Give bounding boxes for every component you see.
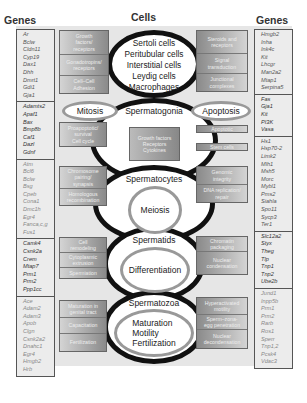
gene-label: Bmp8b [23,126,54,134]
gene-label: Csnk2a2 [23,336,54,344]
gene-label: Dax1 [23,61,54,69]
gene-label: Crem [23,256,54,264]
gene-label: Ros1 [261,328,292,336]
gene-label: Dmrt1 [23,77,54,85]
gene-label: Dazl [23,141,54,149]
gene-label: Mtap7 [23,263,54,271]
gene-label: Jund1 [261,290,292,298]
gene-label: Cyp19 [23,54,54,62]
gene-label: Serpina5 [261,84,292,92]
function-box: Cytoplasmicextrusion [60,253,106,268]
left-gene-group-spermatogonia: Adamts2Apaf1BaxBmp8bCaf1DazlGdnf [17,102,54,159]
gene-label: Prm1 [261,305,292,313]
differentiation-label: Differentiation [129,265,181,275]
mitosis-ring: Mitosis [62,101,118,121]
gene-label: Apaf1 [23,111,54,119]
function-box: Proapoptotic/survivalCell cycle [60,123,106,146]
gene-label: Tlp [261,256,292,264]
right-gene-group-spermatozoa: Jund1Inpp5bPrm1Prm2RarbRos1SperrTnp1,2Pc… [255,289,292,368]
gene-label: Hrb [23,366,54,374]
gene-label: Gja1 [261,103,292,111]
gene-label: Bax [23,119,54,127]
gene-label: Inpp5b [261,298,292,306]
sertoli-cells-label: Sertoli cells [112,38,196,49]
gene-label: Ube2b [261,278,292,286]
function-box: Steroids andreceptors [197,31,247,54]
gene-label: Spo11 [261,206,292,214]
gene-label: Bclw [23,176,54,184]
left-boxes-cells: Growthfactors/receptorsGonadotropins/rec… [59,30,109,94]
gene-label: Inha [261,39,292,47]
gene-label: Bcl6 [23,168,54,176]
right-genes-column: Hmgb2InhaInk4cKitLhcgrMan2a2Mtap1Serpina… [254,29,293,369]
gene-label: Slc12a2 [261,233,292,241]
function-box: Junctionalcomplexes [197,74,247,91]
gene-label: Vdac3 [261,358,292,366]
left-boxes-spermatids: CellremodelingCytoplasmicextrusionSpermi… [59,237,107,279]
gene-label: Mlh1 [261,161,292,169]
function-box: Capacitation [60,318,106,334]
gene-label: Fus1 [23,229,54,237]
gene-label: Fas [261,96,292,104]
left-gene-group-cells: ArBclwCldn11Cyp19Dax1DhhDmrt1Gdi1Gja1 [17,30,54,102]
gene-label: Cpeb [23,191,54,199]
gene-label: Gja1 [23,92,54,100]
gene-label: Adam3 [23,313,54,321]
right-gene-group-cells: Hmgb2InhaInk4cKitLhcgrMan2a2Mtap1Serpina… [255,30,292,95]
gene-label: Atm [23,161,54,169]
gene-label: Kit [261,111,292,119]
gene-label: Apob [23,320,54,328]
somatic-cells-list: Sertoli cells Peritubular cells Intersti… [112,38,196,93]
gene-label: Dmc1h [23,206,54,214]
function-box: Chromosomepairing/synapsis [60,167,106,189]
left-boxes-spermatogonia: Proapoptotic/survivalCell cycle [59,122,107,147]
gene-label: Lhcgr [261,61,292,69]
gene-label: Prm2 [23,278,54,286]
right-boxes-spermatocytes: GenomicintegrityDNA replication/repair [196,166,248,203]
gene-label: Egr4 [23,351,54,359]
meiosis-ring: Meiosis [128,186,182,234]
peritubular-cells-label: Peritubular cells [112,49,196,60]
gene-label: Msh5 [261,168,292,176]
gene-label: Tnp1 [261,263,292,271]
function-box: Nuclearcondensation [197,252,247,274]
cells-title: Cells [131,11,156,23]
gene-label: Cldn11 [23,46,54,54]
gene-label: Gdnf [23,149,54,157]
function-box: Fertilization [60,334,106,351]
gene-label: Styx [261,240,292,248]
leydig-cells-label: Leydig cells [112,71,196,82]
gene-label: Ink4c [261,46,292,54]
gene-label: Caf1 [23,134,54,142]
right-boxes-spermatozoa: HyperactivatedmotilitySperm–zona-egg pen… [196,297,248,349]
gene-label: Theg [261,248,292,256]
apoptosis-label: Apoptosis [202,106,239,116]
gene-label: Hmgb2 [23,358,54,366]
gene-label: Mybl1 [261,183,292,191]
gene-label: Sperr [261,336,292,344]
gene-label: PI3K [261,119,292,127]
left-gene-group-spermatocytes: AtmBcl6BclwBsgCpebCona1Dmc1hEgr4Fanca,c,… [17,160,54,240]
gene-label: Adamts2 [23,103,54,111]
left-boxes-spermatozoa: Maturation ingenital tractCapacitationFe… [59,300,107,352]
gene-label: Ar [23,31,54,39]
gene-label: Hs1 [261,138,292,146]
left-genes-title: Genes [4,14,36,26]
function-box: Apoptotic [196,125,248,133]
interstitial-cells-label: Interstitial cells [112,60,196,71]
gene-label: Mtap1 [261,77,292,85]
spermatozoa-label: Spermatozoa [120,298,188,308]
meiosis-label: Meiosis [141,205,170,215]
left-boxes-spermatocytes: Chromosomepairing/synapsisHomologousreco… [59,166,107,206]
growth-factors-box: Growth factors Receptors Cytokines [129,127,180,161]
apoptosis-ring: Apoptosis [191,101,251,121]
gene-label: Camk4 [23,240,54,248]
gene-label: Fanca,c,g [23,221,54,229]
gene-label: Limk2 [261,153,292,161]
right-boxes-cells: Steroids andreceptorsSignaltransductionJ… [196,30,248,92]
gene-label: Dnahc1 [23,343,54,351]
right-boxes-spermatids: ChromatinpackagingNuclearcondensation [196,236,248,275]
gene-label: Csnk2a [23,248,54,256]
gene-label: Morc [261,176,292,184]
gene-label: Pms2 [261,191,292,199]
